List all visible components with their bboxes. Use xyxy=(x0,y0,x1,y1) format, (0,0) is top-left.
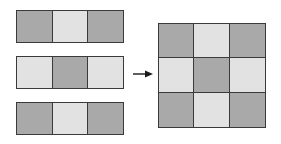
grid-cell-dark xyxy=(159,24,194,58)
strip-cell-dark xyxy=(88,11,123,42)
strip-2 xyxy=(16,56,124,89)
grid-cell-dark xyxy=(230,93,265,127)
strip-cell-dark xyxy=(53,57,89,88)
grid-cell-light xyxy=(194,24,229,58)
grid-cell-light xyxy=(159,58,194,92)
strip-cell-dark xyxy=(17,11,53,42)
strip-cell-light xyxy=(88,57,123,88)
strip-cell-light xyxy=(53,103,89,134)
grid-cell-dark xyxy=(230,24,265,58)
combined-grid xyxy=(158,23,266,128)
grid-cell-light xyxy=(194,93,229,127)
strip-3 xyxy=(16,102,124,135)
strip-cell-light xyxy=(17,57,53,88)
strip-cell-dark xyxy=(88,103,123,134)
strip-cell-dark xyxy=(17,103,53,134)
strip-1 xyxy=(16,10,124,43)
grid-cell-dark xyxy=(194,58,229,92)
grid-cell-dark xyxy=(159,93,194,127)
grid-cell-light xyxy=(230,58,265,92)
arrow-right-icon xyxy=(133,69,153,79)
strip-cell-light xyxy=(53,11,89,42)
